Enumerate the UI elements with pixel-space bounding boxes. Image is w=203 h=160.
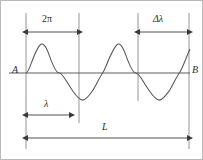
wave-diagram-figure: 2π Δλ λ L A B	[0, 0, 203, 160]
label-lambda: λ	[44, 99, 48, 109]
label-axis-point-b: B	[192, 65, 198, 75]
label-delta-lambda: Δλ	[153, 14, 163, 24]
label-two-pi: 2π	[42, 14, 52, 24]
label-total-length: L	[102, 122, 108, 132]
sine-wave	[26, 44, 190, 100]
diagram-canvas	[1, 1, 203, 160]
label-axis-point-a: A	[12, 65, 18, 75]
